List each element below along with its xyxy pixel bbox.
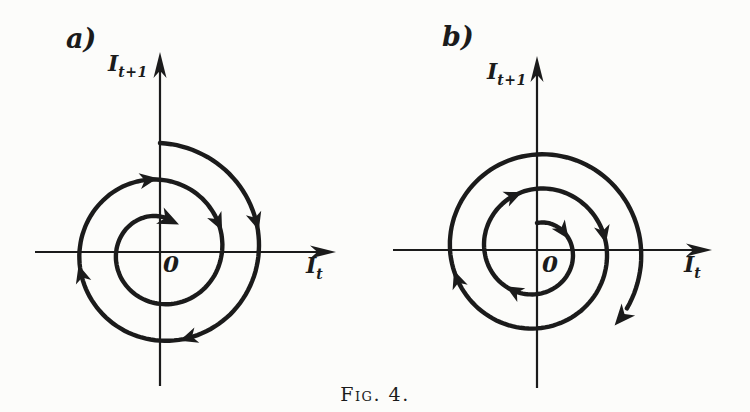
x-axis-subscript-a: t — [316, 266, 323, 282]
y-axis-subscript-a: t+1 — [118, 64, 147, 80]
x-axis-subscript-b: t — [694, 265, 701, 281]
x-axis-label-b: It — [684, 253, 701, 275]
figure-caption: Fig. 4. — [0, 385, 750, 404]
y-axis-label-a: It+1 — [108, 52, 148, 74]
x-axis-label-a: It — [306, 254, 323, 276]
spiral-curve-b — [450, 154, 641, 328]
spiral-terminal-arrow-icon-b — [615, 304, 636, 326]
origin-label-a: 0 — [163, 252, 179, 275]
panel-a-label: a) — [66, 25, 96, 52]
panel-b-group — [393, 56, 712, 388]
origin-label-b: 0 — [542, 252, 558, 275]
y-axis-label-b: It+1 — [487, 60, 527, 82]
y-axis-symbol-a: I — [108, 50, 118, 76]
figure-4-page: a) b) It+1 It+1 It It 0 0 Fig. 4. — [0, 0, 750, 412]
spiral-curve-a — [79, 143, 259, 341]
panel-b-label: b) — [442, 23, 474, 50]
spiral-arrow-icon-b — [552, 220, 569, 239]
x-axis-symbol-b: I — [684, 251, 694, 277]
y-axis-subscript-b: t+1 — [497, 72, 526, 88]
x-axis-symbol-a: I — [306, 252, 316, 278]
panel-a-group — [35, 52, 336, 386]
y-axis-symbol-b: I — [487, 58, 497, 84]
